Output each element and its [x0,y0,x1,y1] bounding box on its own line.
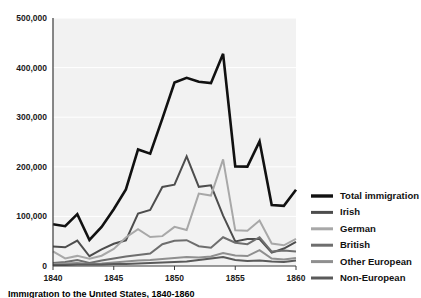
legend-label-other-european: Other European [340,256,412,267]
x-tick-label-3: 1855 [226,273,245,283]
legend-label-british: British [340,239,370,250]
y-tick-label-5: 500,000 [16,13,47,23]
x-tick-label-2: 1850 [165,273,184,283]
legend-label-total-immigration: Total immigration [340,190,419,201]
y-tick-label-3: 300,000 [16,112,47,122]
x-tick-label-0: 1840 [44,273,63,283]
legend-label-irish: Irish [340,206,360,217]
x-tick-label-4: 1860 [287,273,306,283]
legend-label-german: German [340,223,376,234]
y-tick-label-4: 400,000 [16,63,47,73]
y-tick-label-1: 100,000 [16,211,47,221]
x-tick-label-1: 1845 [104,273,123,283]
y-tick-label-0: 0 [42,261,47,271]
figure-caption: Immigration to the United States, 1840-1… [0,291,421,298]
caption-label: Immigration to the United States, 1840-1… [8,291,195,298]
legend-label-non-european: Non-European [340,272,406,283]
y-tick-label-2: 200,000 [16,162,47,172]
immigration-line-chart: 0100,000200,000300,000400,000500,000 184… [0,0,421,298]
